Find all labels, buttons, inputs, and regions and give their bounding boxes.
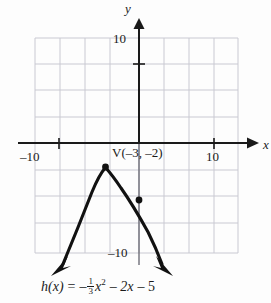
equation-term-constant: – 5 — [137, 279, 155, 294]
curve-right-arrow-icon — [153, 256, 173, 276]
y-intercept-point — [136, 197, 143, 204]
axis-tick-marks — [59, 64, 214, 149]
vertex-point — [102, 164, 109, 171]
x-tick-label-minus-10: –10 — [20, 150, 40, 163]
x-axis-arrow-icon — [247, 138, 259, 149]
y-axis-arrow-icon — [134, 18, 145, 29]
equation-term-linear: – 2x — [110, 279, 134, 294]
function-equation: h(x)=–13x2– 2x– 5 — [41, 277, 155, 297]
fraction-denominator: 3 — [87, 287, 94, 296]
graph-figure: y x 10 –10 –10 10 V(–3, –2) h(x)=–13x2– … — [0, 0, 271, 303]
x-tick-label-10: 10 — [206, 150, 219, 163]
equation-equals: = — [68, 279, 76, 294]
equation-fraction: 13 — [87, 277, 94, 297]
vertex-annotation-label: V(–3, –2) — [112, 146, 163, 159]
equation-lhs: h(x) — [41, 279, 64, 294]
y-tick-label-minus-10: –10 — [108, 246, 128, 259]
curve-left-arrow-icon — [51, 256, 71, 276]
y-tick-label-10: 10 — [113, 32, 126, 45]
x-axis-label: x — [263, 138, 269, 151]
equation-exponent: 2 — [101, 277, 106, 287]
y-axis-label: y — [125, 2, 131, 15]
equation-leading-sign: – — [79, 279, 86, 294]
